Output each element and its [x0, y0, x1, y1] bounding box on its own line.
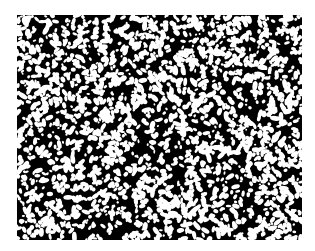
speckle-texture-image [17, 15, 302, 240]
speckle-pattern [17, 15, 302, 240]
